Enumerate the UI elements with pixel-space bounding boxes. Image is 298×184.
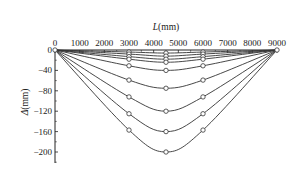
x-tick-label: 7000 <box>219 38 238 48</box>
x-tick-label: 9000 <box>268 38 287 48</box>
y-tick-label: −120 <box>33 106 52 116</box>
x-tick-label: 3000 <box>120 38 139 48</box>
data-point-marker <box>164 150 168 154</box>
deflection-chart: L(mm) Δ(mm) 0100020003000400050006000700… <box>0 0 298 184</box>
data-point-marker <box>201 64 205 68</box>
svg-text:Δ(mm): Δ(mm) <box>20 89 31 117</box>
x-axis-title: L(mm) <box>152 22 179 33</box>
y-tick-label: 0 <box>48 45 53 55</box>
y-tick-label: −200 <box>33 147 52 157</box>
y-axis-unit: (mm) <box>20 89 31 110</box>
support-marker-left <box>53 48 57 52</box>
data-point-marker <box>201 95 205 99</box>
data-point-marker <box>201 128 205 132</box>
data-point-marker <box>127 57 131 61</box>
support-marker-right <box>275 48 279 52</box>
x-tick-label: 0 <box>53 38 58 48</box>
x-tick-label: 6000 <box>194 38 213 48</box>
x-tick-label: 8000 <box>243 38 262 48</box>
data-point-marker <box>127 64 131 68</box>
x-axis-unit: (mm) <box>158 22 179 33</box>
data-point-marker <box>164 60 168 64</box>
data-point-marker <box>164 86 168 90</box>
deflection-curves <box>55 50 277 152</box>
data-point-marker <box>201 57 205 61</box>
data-point-marker <box>127 95 131 99</box>
x-tick-label: 2000 <box>95 38 114 48</box>
y-tick-label: −80 <box>38 86 53 96</box>
deflection-curve <box>55 50 277 152</box>
data-point-marker <box>127 78 131 82</box>
y-tick-label: −160 <box>33 127 52 137</box>
x-tick-label: 1000 <box>71 38 90 48</box>
x-tick-label: 5000 <box>169 38 188 48</box>
data-point-marker <box>127 112 131 116</box>
svg-text:L(mm): L(mm) <box>152 22 179 33</box>
data-point-marker <box>164 68 168 72</box>
data-point-marker <box>164 109 168 113</box>
y-axis-title: Δ(mm) <box>20 89 31 117</box>
x-tick-label: 4000 <box>145 38 164 48</box>
y-tick-label: −40 <box>38 65 53 75</box>
axes <box>55 50 277 163</box>
y-axis-ticks: 0−40−80−120−160−200 <box>33 45 58 162</box>
data-point-marker <box>127 128 131 132</box>
data-point-marker <box>164 129 168 133</box>
data-point-marker <box>201 112 205 116</box>
data-point-marker <box>201 78 205 82</box>
